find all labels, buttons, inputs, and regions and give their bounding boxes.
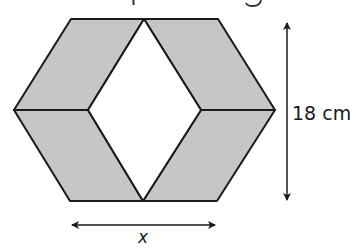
- height-label: 18 cm: [292, 102, 351, 124]
- width-label: x: [137, 227, 149, 247]
- diagram-canvas: 18 cm x: [0, 0, 359, 248]
- cropped-heading-fragment: [134, 0, 262, 6]
- hexagon-diagram: 18 cm x: [0, 0, 359, 248]
